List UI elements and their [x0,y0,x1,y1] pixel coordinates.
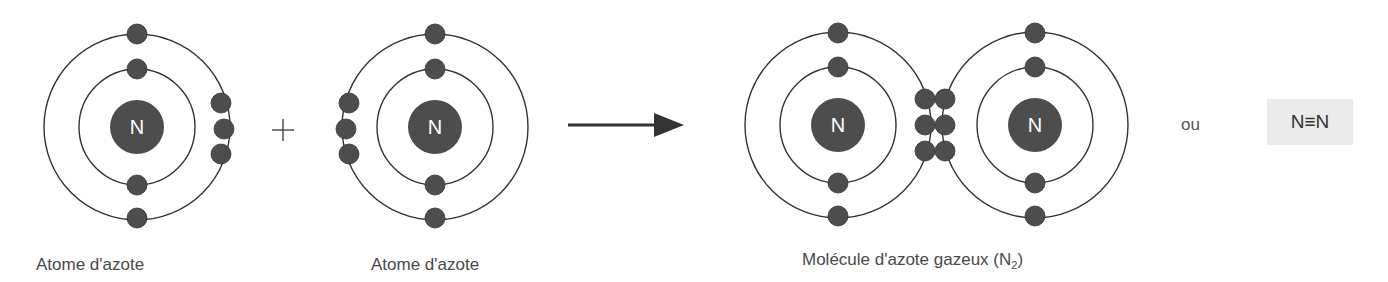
nucleus-symbol: N [130,116,144,138]
nitrogen-bonding-diagram: N N N N [0,0,1388,282]
plus-sign [272,119,294,141]
atom-2: N [336,24,528,228]
svg-text:N: N [831,114,845,136]
svg-text:N: N [428,116,442,138]
atom-1-label: Atome d'azote [36,255,144,275]
atom-2-label: Atome d'azote [371,255,479,275]
or-connector: ou [1181,115,1200,135]
svg-text:N: N [1028,114,1042,136]
n2-molecule: N N [745,23,1128,226]
molecule-label: Molécule d'azote gazeux (N2) [802,250,1023,271]
structural-formula: N≡N [1267,99,1353,145]
atom-1: N [44,24,234,228]
